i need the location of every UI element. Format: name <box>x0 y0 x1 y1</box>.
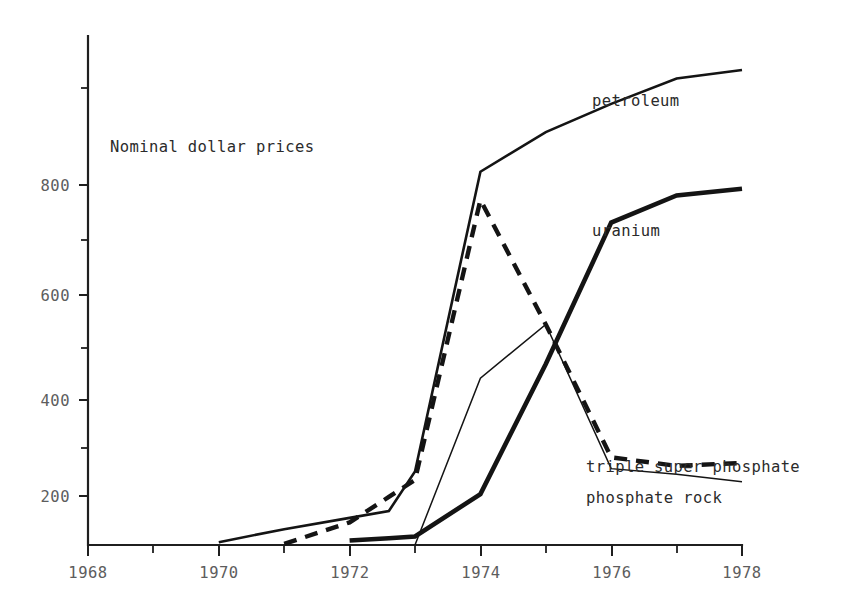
y-tick-label-200: 200 <box>41 488 71 506</box>
y-axis-ticks: 800 600 400 200 <box>41 88 89 506</box>
x-tick-label-1972: 1972 <box>330 564 369 582</box>
x-tick-label-1968: 1968 <box>68 564 107 582</box>
x-tick-label-1976: 1976 <box>592 564 631 582</box>
series-line-phosphate-rock <box>415 324 742 545</box>
y-tick-label-800: 800 <box>41 177 71 195</box>
x-axis-ticks: 1968 1970 1972 1974 1976 1978 <box>68 545 761 582</box>
y-tick-label-400: 400 <box>41 392 71 410</box>
chart-annotation: Nominal dollar prices <box>110 138 314 156</box>
line-chart-plot: 800 600 400 200 1968 1970 1972 1974 1976… <box>0 0 855 605</box>
chart-container: 800 600 400 200 1968 1970 1972 1974 1976… <box>0 0 855 605</box>
series-label-petroleum: petroleum <box>592 92 680 110</box>
series-label-phosphate-rock: phosphate rock <box>586 489 723 507</box>
x-tick-label-1974: 1974 <box>461 564 500 582</box>
x-tick-label-1970: 1970 <box>199 564 238 582</box>
x-tick-label-1978: 1978 <box>722 564 761 582</box>
series-label-uranium: uranium <box>592 222 660 240</box>
y-tick-label-600: 600 <box>41 287 71 305</box>
series-line-uranium <box>350 189 742 541</box>
series-label-triple-super-phosphate: triple super phosphate <box>586 458 800 476</box>
series-labels-group: petroleum uranium triple super phosphate… <box>586 92 800 507</box>
